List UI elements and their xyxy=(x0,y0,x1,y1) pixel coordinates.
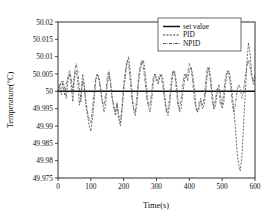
y-axis-title: Temperature(°C) xyxy=(6,71,15,128)
x-tick-label: 200 xyxy=(118,182,129,191)
y-tick-label: 49.995 xyxy=(33,104,54,113)
legend-label-npid: NPID xyxy=(183,39,201,48)
x-axis-title: Time(s) xyxy=(143,201,169,210)
x-tick-label: 400 xyxy=(184,182,195,191)
y-tick-label: 50.01 xyxy=(36,52,53,61)
x-tick-label: 0 xyxy=(56,182,60,191)
y-tick-label: 50.015 xyxy=(33,35,54,44)
temperature-comparison-chart: 49.97549.9849.98549.9949.9955050.00550.0… xyxy=(0,0,278,216)
y-tick-label: 50.02 xyxy=(36,18,53,27)
y-tick-label: 50.005 xyxy=(33,70,54,79)
x-tick-label: 600 xyxy=(249,182,260,191)
y-tick-label: 49.98 xyxy=(36,156,53,165)
y-tick-label: 50 xyxy=(46,87,54,96)
x-tick-label: 500 xyxy=(217,182,228,191)
y-tick-label: 49.985 xyxy=(33,139,54,148)
x-tick-label: 100 xyxy=(85,182,96,191)
chart-legend: set value PID NPID xyxy=(158,18,241,51)
x-tick-label: 300 xyxy=(151,182,162,191)
y-tick-label: 49.975 xyxy=(33,174,54,183)
y-tick-label: 49.99 xyxy=(36,122,53,131)
chart-canvas: 49.97549.9849.98549.9949.9955050.00550.0… xyxy=(0,0,278,216)
